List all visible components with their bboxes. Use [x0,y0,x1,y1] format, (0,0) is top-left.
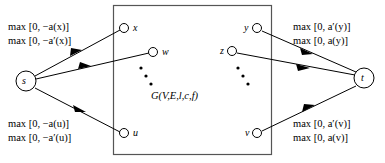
node-s-label: s [22,74,26,88]
label-top-left-line2: max [0, −a′(x)] [8,34,71,48]
node-z-label: z [220,44,224,58]
graph-box-label: G(V,E,l,c,f) [151,89,198,103]
label-bottom-left-line2: max [0, −a′(u)] [8,131,71,145]
label-top-right-line1: max [0, a′(y)] [293,20,350,34]
node-z [228,47,237,56]
node-y-label: y [244,21,248,35]
arrowhead-v-to-t [302,104,315,112]
label-top-left: max [0, −a(x)] max [0, −a′(x)] [8,20,71,48]
label-bottom-right-line1: max [0, a′(v)] [293,117,350,131]
left-ellipsis-icon [139,66,152,85]
node-t [354,68,374,88]
node-v [253,129,262,138]
node-x-label: x [133,21,137,35]
node-u [120,129,129,138]
right-ellipsis-icon [236,66,249,85]
label-bottom-left: max [0, −a(u)] max [0, −a′(u)] [8,117,71,145]
node-x [120,24,129,33]
label-top-right-line2: max [0, a(y)] [293,34,350,48]
label-bottom-right-line2: max [0, a(v)] [293,131,350,145]
node-w-label: w [162,45,169,59]
label-top-left-line1: max [0, −a(x)] [8,20,71,34]
arrowhead-s-to-u [73,105,86,112]
node-u-label: u [133,126,138,140]
arrowhead-y-to-t [300,48,313,55]
network-flow-figure: s t x w u y z v G(V,E,l,c,f) max [0, −a(… [0,0,385,163]
node-t-label: t [361,71,364,85]
node-s [16,71,36,91]
node-v-label: v [245,126,249,140]
label-bottom-left-line1: max [0, −a(u)] [8,117,71,131]
label-bottom-right: max [0, a′(v)] max [0, a(v)] [293,117,350,145]
node-y [253,24,262,33]
label-top-right: max [0, a′(y)] max [0, a(y)] [293,20,350,48]
node-w [149,48,158,57]
